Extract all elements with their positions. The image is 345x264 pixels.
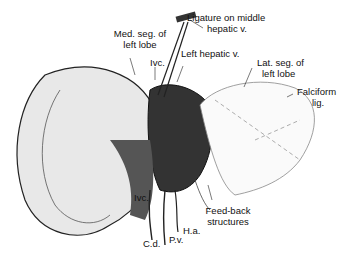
label-feedback-line1: Feed-back <box>198 206 258 216</box>
label-ligature-line1: Ligature on middle <box>187 13 265 23</box>
label-lat-seg-line2: left lobe <box>262 69 295 79</box>
label-med-seg-line2: left lobe <box>110 40 170 50</box>
label-feedback-line2: structures <box>198 217 258 227</box>
label-portal-vein: P.v. <box>169 235 183 245</box>
label-hepatic-artery: H.a. <box>183 226 200 236</box>
liver-drawing <box>0 0 345 264</box>
liver-illustration: Ligature on middle hepatic v. Med. seg. … <box>0 0 345 264</box>
label-left-hepatic-v: Left hepatic v. <box>181 49 239 59</box>
label-ligature-line2: hepatic v. <box>207 24 247 34</box>
label-common-duct: C.d. <box>143 239 160 249</box>
label-falciform-line1: Falciform <box>297 87 336 97</box>
label-med-seg-line1: Med. seg. of <box>110 29 170 39</box>
label-lat-seg-line1: Lat. seg. of <box>257 58 304 68</box>
label-falciform-line2: lig. <box>312 98 324 108</box>
label-ivc-bottom: Ivc. <box>134 193 149 203</box>
label-ivc-top: Ivc. <box>150 58 165 68</box>
